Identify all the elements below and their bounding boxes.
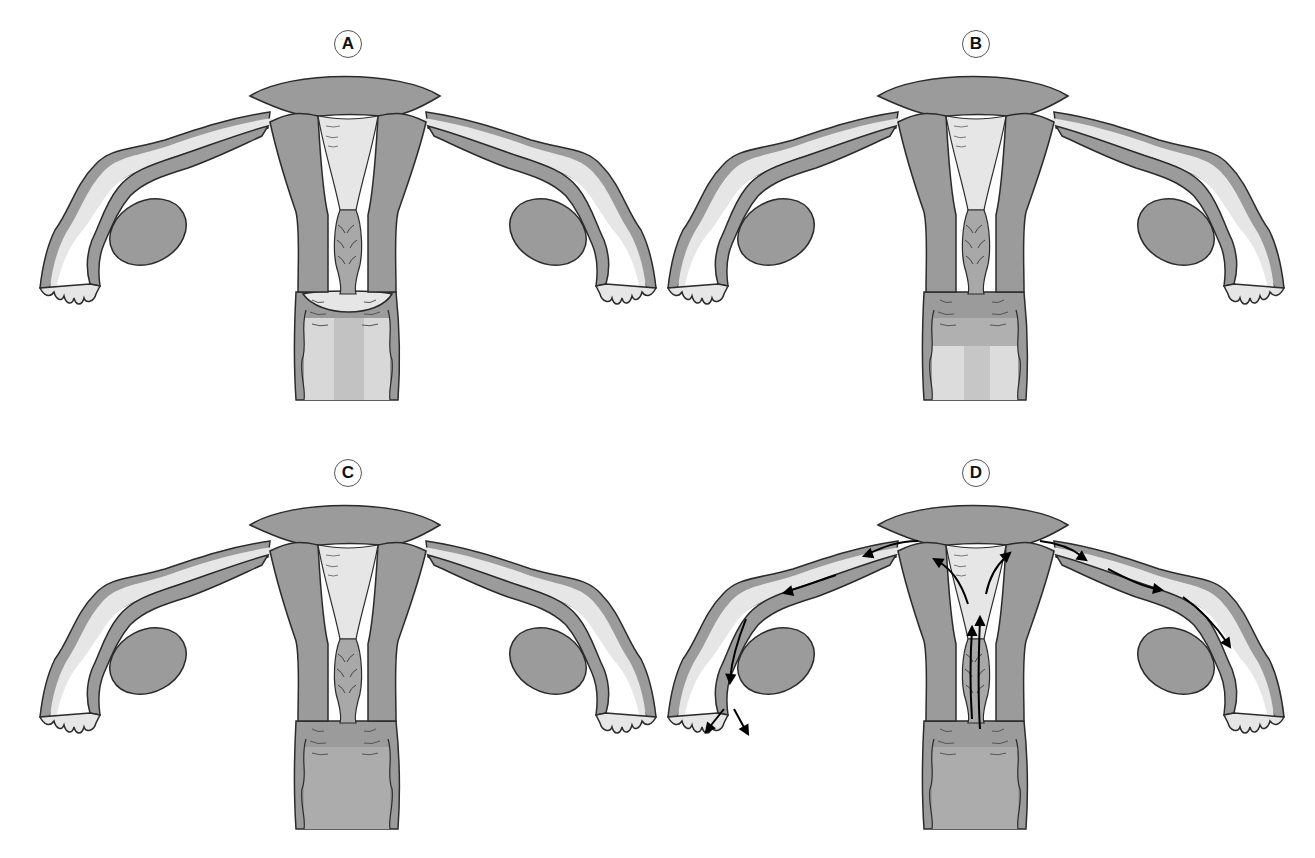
fallopian-tube-right <box>424 112 656 304</box>
reproductive-tract-illustration <box>0 0 657 429</box>
vagina <box>295 291 400 400</box>
diagram-panel-b: B <box>628 0 1285 429</box>
vagina <box>295 721 400 829</box>
fallopian-tube-right <box>1052 541 1284 733</box>
diagram-panel-a: A <box>0 0 657 429</box>
uterine-cavity <box>318 116 378 210</box>
fallopian-tube-right <box>424 541 656 733</box>
vagina <box>923 721 1028 829</box>
reproductive-tract-illustration <box>628 429 1285 858</box>
reproductive-tract-illustration <box>0 429 657 858</box>
cervical-canal <box>334 210 361 294</box>
reproductive-tract-illustration <box>628 0 1285 429</box>
cervical-canal <box>962 639 989 723</box>
diagram-panel-d: D <box>628 429 1285 858</box>
uterine-cavity <box>946 116 1006 210</box>
uterus <box>878 77 1068 295</box>
fimbriae <box>40 713 100 733</box>
diagram-panel-c: C <box>0 429 657 858</box>
fimbriae <box>668 284 728 304</box>
fallopian-tube-left <box>668 112 900 304</box>
fimbriae <box>1224 713 1284 733</box>
fallopian-tube-left <box>40 541 272 733</box>
fimbriae <box>40 284 100 304</box>
uterus <box>878 506 1068 724</box>
fimbriae <box>1224 284 1284 304</box>
fallopian-tube-left <box>40 112 272 304</box>
vagina <box>923 292 1028 400</box>
cervical-canal <box>334 639 361 723</box>
cervical-canal <box>962 210 989 294</box>
uterus <box>250 77 440 295</box>
uterine-cavity <box>318 545 378 639</box>
fallopian-tube-right <box>1052 112 1284 304</box>
uterus <box>250 506 440 724</box>
fallopian-tube-left <box>668 541 900 733</box>
